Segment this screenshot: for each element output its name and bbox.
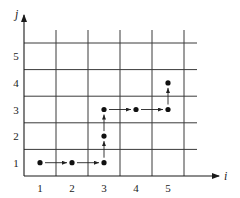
grid xyxy=(24,30,197,176)
x-tick-label: 1 xyxy=(37,182,43,194)
x-tick-labels: 12345 xyxy=(37,182,171,194)
path-point xyxy=(165,107,170,112)
y-tick-label: 2 xyxy=(13,130,19,142)
x-tick-label: 3 xyxy=(101,182,107,194)
path-point xyxy=(133,107,138,112)
path-point xyxy=(69,160,74,165)
x-axis-label: i xyxy=(224,169,227,183)
path-point xyxy=(37,160,42,165)
y-tick-label: 1 xyxy=(13,157,19,169)
y-tick-label: 5 xyxy=(13,50,19,62)
x-tick-label: 5 xyxy=(165,182,171,194)
path-point xyxy=(165,80,170,85)
y-tick-label: 4 xyxy=(13,77,19,89)
y-axis-label: j xyxy=(13,7,19,21)
path-point xyxy=(101,107,106,112)
path-point xyxy=(101,160,106,165)
x-tick-label: 4 xyxy=(133,182,139,194)
path-point xyxy=(101,134,106,139)
lattice-path-diagram: i j 12345 12345 xyxy=(0,0,240,198)
y-tick-labels: 12345 xyxy=(13,50,19,168)
path-arrows xyxy=(45,88,168,163)
x-tick-label: 2 xyxy=(69,182,75,194)
y-tick-label: 3 xyxy=(13,104,19,116)
